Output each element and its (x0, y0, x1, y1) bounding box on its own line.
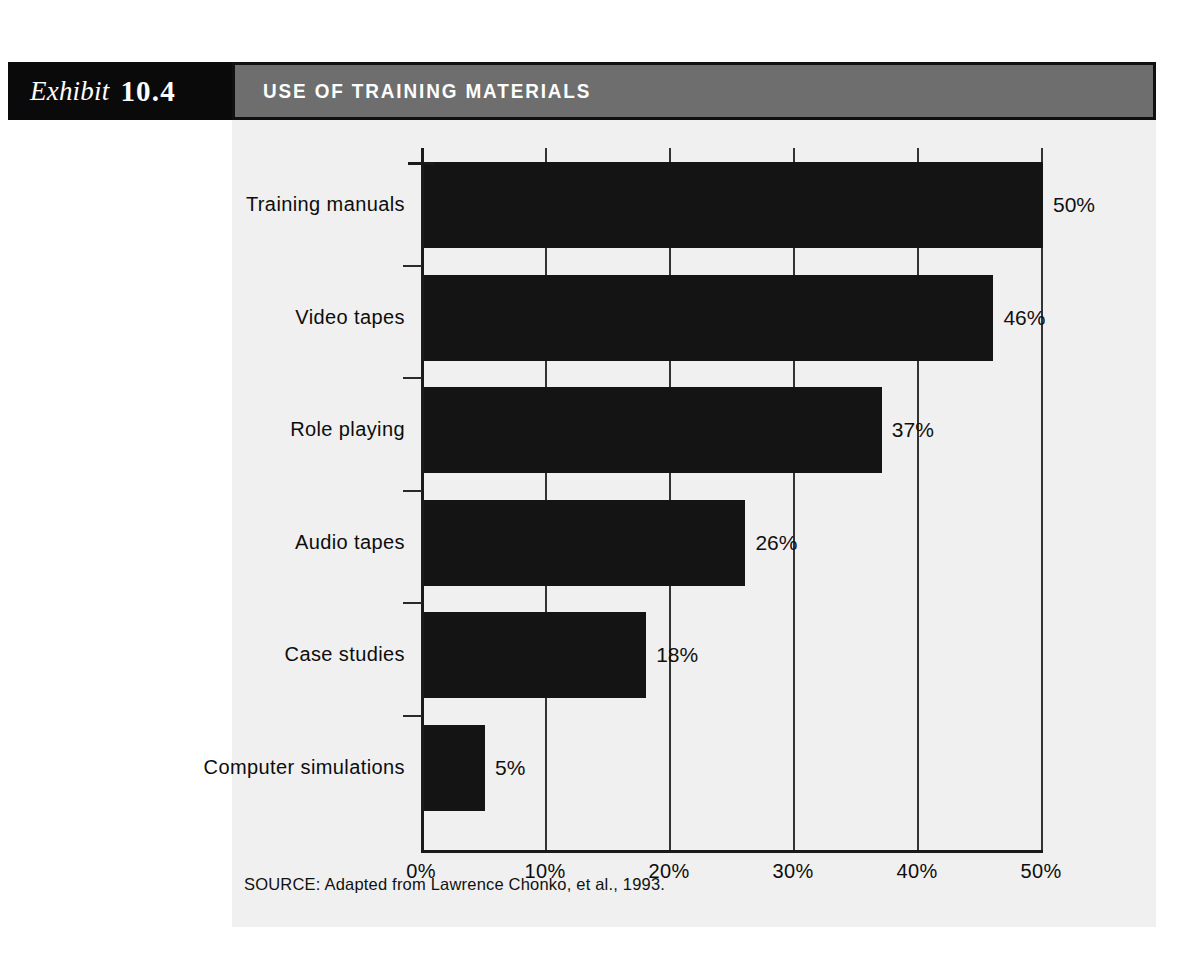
bar-value-label: 37% (892, 418, 934, 442)
exhibit-number-block: Exhibit 10.4 (8, 62, 232, 120)
bar-row: Audio tapes26% (421, 500, 1041, 586)
bar-value-label: 5% (495, 755, 525, 779)
y-axis-tick (403, 490, 422, 492)
exhibit-title-bar: USE OF TRAINING MATERIALS (232, 62, 1156, 120)
bar-chart-plot: Training manuals50%Video tapes46%Role pl… (421, 148, 1041, 853)
bar-row: Case studies18% (421, 612, 1041, 698)
bar-row: Video tapes46% (421, 275, 1041, 361)
bar-value-label: 26% (755, 530, 797, 554)
x-tick-label: 50% (1021, 860, 1062, 883)
bar-row: Role playing37% (421, 387, 1041, 473)
category-label: Computer simulations (204, 756, 405, 779)
category-label: Role playing (290, 418, 405, 441)
bar-value-label: 46% (1003, 305, 1045, 329)
x-axis-line (421, 850, 1043, 853)
y-axis-line (421, 148, 424, 853)
category-label: Audio tapes (295, 531, 405, 554)
bar[interactable] (423, 500, 745, 586)
y-axis-tick (403, 602, 422, 604)
y-axis-tick (403, 265, 422, 267)
exhibit-number: 10.4 (120, 75, 176, 108)
exhibit-title: USE OF TRAINING MATERIALS (263, 79, 591, 103)
bar[interactable] (423, 275, 993, 361)
category-label: Training manuals (246, 193, 405, 216)
bar-value-label: 50% (1053, 193, 1095, 217)
y-axis-tick (403, 715, 422, 717)
x-tick-label: 40% (897, 860, 938, 883)
x-tick-label: 30% (773, 860, 814, 883)
y-axis-tick (403, 377, 422, 379)
bar[interactable] (423, 612, 646, 698)
exhibit-label: Exhibit (30, 76, 109, 107)
bar-value-label: 18% (656, 643, 698, 667)
bar-row: Training manuals50% (421, 162, 1041, 248)
source-note: SOURCE: Adapted from Lawrence Chonko, et… (244, 875, 665, 894)
gridline (1041, 148, 1043, 853)
bar[interactable] (423, 725, 485, 811)
category-label: Video tapes (295, 306, 405, 329)
axis-top-cap (408, 162, 434, 165)
bar[interactable] (423, 387, 882, 473)
figure-panel: Training manuals50%Video tapes46%Role pl… (232, 120, 1156, 927)
category-label: Case studies (285, 643, 405, 666)
bar-row: Computer simulations5% (421, 725, 1041, 811)
bar[interactable] (423, 162, 1043, 248)
